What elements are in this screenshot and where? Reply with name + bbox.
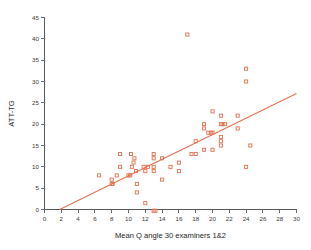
- scatter-plot-figure: 024681012141618202224262830 051015202530…: [0, 0, 311, 250]
- y-tick-label: 5: [36, 184, 40, 191]
- y-tick-label: 40: [32, 35, 39, 42]
- y-tick-label: 20: [32, 120, 39, 127]
- x-tick-label: 24: [243, 215, 250, 222]
- y-axis-title: ATT-TG: [7, 100, 16, 127]
- x-tick-label: 20: [209, 215, 216, 222]
- x-tick-label: 14: [159, 215, 166, 222]
- y-tick-label: 45: [32, 14, 39, 21]
- x-axis-title: Mean Q angle 30 examiners 1&2: [115, 231, 226, 240]
- x-tick-label: 26: [259, 215, 266, 222]
- x-tick-label: 22: [226, 215, 233, 222]
- y-tick-label: 30: [32, 78, 39, 85]
- x-tick-label: 2: [60, 215, 64, 222]
- y-tick-label: 35: [32, 56, 39, 63]
- x-tick-label: 28: [276, 215, 283, 222]
- x-tick-label: 16: [175, 215, 182, 222]
- x-tick-label: 4: [76, 215, 80, 222]
- y-tick-label: 0: [36, 206, 40, 213]
- x-tick-label: 6: [93, 215, 97, 222]
- plot-canvas: 024681012141618202224262830 051015202530…: [0, 0, 311, 250]
- y-tick-label: 25: [32, 99, 39, 106]
- x-tick-label: 18: [192, 215, 199, 222]
- x-tick-label: 30: [293, 215, 300, 222]
- x-tick-label: 12: [142, 215, 149, 222]
- x-tick-label: 0: [43, 215, 47, 222]
- x-tick-label: 8: [110, 215, 114, 222]
- y-tick-label: 15: [32, 142, 39, 149]
- x-tick-label: 10: [125, 215, 132, 222]
- y-tick-label: 10: [32, 163, 39, 170]
